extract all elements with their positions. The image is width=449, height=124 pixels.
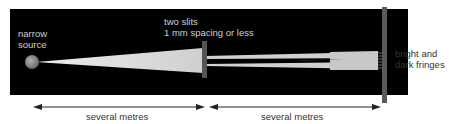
source-label-line2: source [18,39,47,50]
interference-region [330,51,378,70]
fringes-label-line1: bright and [395,48,445,59]
slits-label: two slits 1 mm spacing or less [164,16,254,38]
slits-label-line2: 1 mm spacing or less [164,27,254,38]
slit-plate [202,41,207,78]
screen [382,7,387,103]
distance-arrow-left [33,104,205,110]
distance-label-right: several metres [261,111,323,122]
fringes-label-line2: dark fringes [395,59,445,70]
source-icon [25,55,39,69]
source-label: narrow source [18,28,47,50]
source-label-line1: narrow [18,28,47,39]
distance-arrow-right [209,104,381,110]
slits-label-line1: two slits [164,16,254,27]
distance-label-left: several metres [86,111,148,122]
fringes-label: bright and dark fringes [395,48,445,70]
